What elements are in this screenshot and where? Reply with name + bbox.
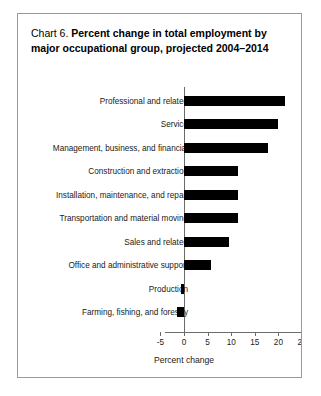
bar-row: Sales and related — [18, 230, 302, 254]
x-axis-tick-label: 10 — [227, 338, 236, 347]
x-axis-tick — [184, 332, 185, 336]
bar — [184, 213, 238, 223]
bar-category-label: Professional and related — [100, 96, 188, 105]
chart-number: Chart 6. — [31, 27, 68, 39]
bar-category-label: Construction and extraction — [88, 167, 188, 176]
bar — [184, 166, 238, 176]
bar-category-label: Management, business, and financial — [53, 143, 188, 152]
bar — [181, 284, 184, 294]
bar — [184, 96, 285, 106]
bar-category-label: Office and administrative support — [68, 261, 188, 270]
chart-card: Chart 6. Percent change in total employm… — [17, 13, 302, 378]
bar-row: Installation, maintenance, and repair — [18, 183, 302, 207]
plot-area: Professional and relatedServiceManagemen… — [18, 87, 302, 378]
x-axis-label: Percent change — [154, 355, 214, 365]
bar — [184, 237, 229, 247]
bar — [184, 260, 211, 270]
x-axis-tick — [160, 332, 161, 336]
x-axis-tick — [278, 332, 279, 336]
bar-row: Office and administrative support — [18, 254, 302, 278]
page-title: Chart 6. Percent change in total employm… — [31, 26, 293, 56]
x-axis-tick — [255, 332, 256, 336]
bar — [184, 190, 238, 200]
x-axis-tick-label: 20 — [274, 338, 283, 347]
x-axis-tick — [231, 332, 232, 336]
x-axis-tick — [208, 332, 209, 336]
x-axis-line-negative — [165, 332, 185, 333]
bar-category-label: Installation, maintenance, and repair — [56, 190, 188, 199]
x-axis-tick-label: -5 — [157, 338, 164, 347]
bar-row: Management, business, and financial — [18, 136, 302, 160]
x-axis-tick-label: 0 — [182, 338, 187, 347]
bar — [184, 143, 268, 153]
x-axis-tick-label: 25 — [297, 338, 302, 347]
x-axis-tick-label: 5 — [205, 338, 210, 347]
bar-row: Farming, fishing, and forestry — [18, 301, 302, 325]
bar-row: Transportation and material moving — [18, 207, 302, 231]
bar-category-label: Transportation and material moving — [60, 214, 189, 223]
bar — [177, 307, 184, 317]
bar — [184, 119, 278, 129]
bar-category-label: Sales and related — [124, 237, 188, 246]
x-axis-line — [184, 332, 302, 333]
bar-row: Construction and extraction — [18, 160, 302, 184]
bar-row: Production — [18, 277, 302, 301]
x-axis-tick-label: 15 — [250, 338, 259, 347]
bar-row: Professional and related — [18, 89, 302, 113]
bar-category-label: Farming, fishing, and forestry — [82, 308, 188, 317]
bar-row: Service — [18, 113, 302, 137]
